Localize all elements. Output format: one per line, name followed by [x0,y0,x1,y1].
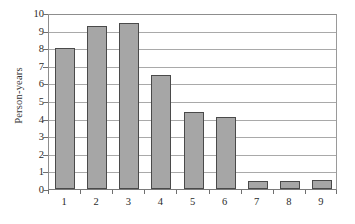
x-axis-tick-mark [305,190,306,194]
x-axis-tick-label: 4 [158,196,163,208]
bar [151,75,171,189]
x-axis-tick-label: 9 [318,196,323,208]
x-axis-tick-mark [144,190,145,194]
bar [55,48,75,189]
bar [87,26,107,189]
bar [280,181,300,189]
x-axis-tick-mark [176,190,177,194]
x-axis-tick-label: 7 [254,196,259,208]
x-axis-tick-mark [241,190,242,194]
x-axis-tick-label: 1 [61,196,66,208]
bar [184,112,204,189]
bar [248,181,268,189]
bar [216,117,236,189]
x-axis-tick-label: 5 [190,196,195,208]
x-axis-tick-label: 8 [286,196,291,208]
x-axis-tick-mark [48,190,49,194]
x-axis-tick-mark [336,190,337,194]
x-axis-tick-marks [48,190,337,195]
x-axis-tick-mark [80,190,81,194]
x-axis-tick-mark [112,190,113,194]
x-axis-tick-mark [209,190,210,194]
x-axis-tick-mark [273,190,274,194]
x-axis-tick-labels: 123456789 [48,196,337,214]
x-axis-tick-label: 3 [126,196,131,208]
y-axis-tick-marks [0,14,48,190]
bar-chart: Person-years 012345678910 123456789 [0,0,355,224]
bar [119,23,139,189]
x-axis-tick-label: 2 [94,196,99,208]
bar [312,180,332,189]
plot-area [48,14,337,190]
x-axis-tick-label: 6 [222,196,227,208]
